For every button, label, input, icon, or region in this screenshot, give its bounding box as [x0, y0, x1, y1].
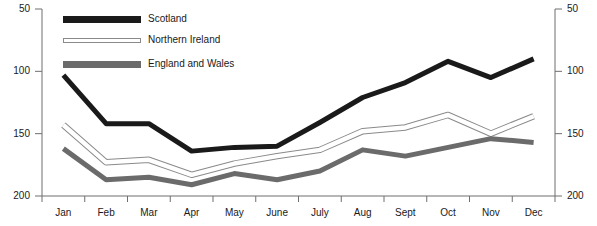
x-axis-tick-label: Mar	[126, 208, 172, 218]
legend-label: Northern Ireland	[148, 35, 220, 45]
x-axis-tick-label: Sept	[382, 208, 428, 218]
x-axis-tick-label: Aug	[340, 208, 386, 218]
x-axis-tick-label: Dec	[511, 208, 557, 218]
legend-label: Scotland	[148, 14, 187, 24]
legend-swatch-england-wales	[63, 61, 141, 68]
y-axis-left-tick-label: 100	[4, 66, 30, 76]
x-axis-tick-label: Apr	[169, 208, 215, 218]
legend-swatch-northern-ireland	[63, 38, 141, 43]
y-axis-left-tick-label: 150	[4, 129, 30, 139]
y-axis-right-tick-label: 200	[567, 191, 593, 201]
y-axis-left-tick-label: 50	[4, 4, 30, 14]
legend-item-scotland[interactable]: Scotland	[63, 14, 187, 24]
x-axis-tick-label: July	[297, 208, 343, 218]
y-axis-left-tick-label: 200	[4, 191, 30, 201]
y-axis-right-tick-label: 100	[567, 66, 593, 76]
series-line-scotland	[63, 59, 533, 151]
x-axis-tick-label: Nov	[468, 208, 514, 218]
line-chart: 20015010050 20015010050 JanFebMarAprMayJ…	[0, 0, 597, 226]
y-axis-right-tick-label: 150	[567, 129, 593, 139]
y-axis-right-tick-label: 50	[567, 4, 593, 14]
x-axis-tick-label: Jan	[40, 208, 86, 218]
x-axis-tick-label: May	[211, 208, 257, 218]
plot-area	[0, 0, 597, 226]
legend-item-northern-ireland[interactable]: Northern Ireland	[63, 35, 220, 45]
legend-item-england-wales[interactable]: England and Wales	[63, 59, 234, 69]
x-axis-tick-label: June	[254, 208, 300, 218]
legend-swatch-scotland	[63, 16, 141, 23]
series-lines	[63, 59, 533, 185]
x-axis-tick-label: Oct	[425, 208, 471, 218]
x-axis-tick-label: Feb	[83, 208, 129, 218]
legend-label: England and Wales	[148, 59, 234, 69]
